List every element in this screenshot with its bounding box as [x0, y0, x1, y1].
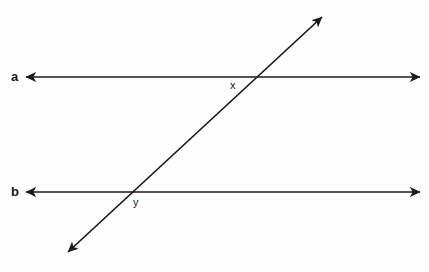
label-vertex-x: x	[230, 80, 236, 91]
transversal-line	[68, 17, 322, 252]
geometry-canvas	[0, 0, 429, 272]
label-line-b: b	[11, 185, 19, 198]
label-vertex-y: y	[133, 197, 139, 208]
label-line-a: a	[11, 70, 18, 83]
geometry-diagram: a b x y	[0, 0, 429, 272]
